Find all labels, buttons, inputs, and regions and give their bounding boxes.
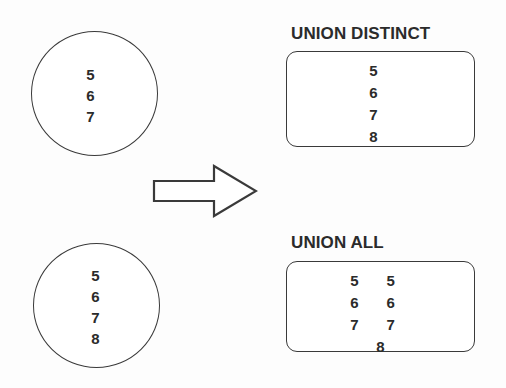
set-a-value: 5 xyxy=(86,64,95,85)
union-all-columns: 5 6 7 5 6 7 xyxy=(350,270,395,336)
union-all-value: 7 xyxy=(387,314,395,336)
set-b-value: 8 xyxy=(91,328,100,349)
set-b-value: 5 xyxy=(91,265,100,286)
union-all-value: 6 xyxy=(350,292,358,314)
union-distinct-value: 5 xyxy=(369,60,377,82)
set-a-value: 6 xyxy=(86,85,95,106)
union-all-left-column: 5 6 7 xyxy=(350,270,358,336)
input-set-circle-b: 5 6 7 8 xyxy=(33,243,160,368)
union-distinct-caption: UNION DISTINCT xyxy=(291,24,430,44)
set-a-value: 7 xyxy=(86,106,95,127)
union-comparison-diagram: 5 6 7 5 6 7 8 UNION DISTINCT 5 6 7 8 UNI… xyxy=(0,0,506,388)
input-set-circle-a: 5 6 7 xyxy=(31,31,158,156)
union-all-value: 6 xyxy=(387,292,395,314)
union-all-result-box: 5 6 7 5 6 7 8 xyxy=(286,261,475,352)
union-distinct-values: 5 6 7 8 xyxy=(280,60,467,148)
union-distinct-value: 6 xyxy=(369,82,377,104)
union-all-value: 5 xyxy=(387,270,395,292)
union-distinct-value: 8 xyxy=(369,126,377,148)
right-block-arrow-icon xyxy=(152,163,258,219)
union-distinct-value: 7 xyxy=(369,104,377,126)
union-distinct-result-box: 5 6 7 8 xyxy=(286,51,475,147)
union-all-value: 7 xyxy=(350,314,358,336)
union-all-tail-value: 8 xyxy=(376,336,384,358)
union-all-right-column: 5 6 7 xyxy=(387,270,395,336)
set-b-value: 7 xyxy=(91,307,100,328)
set-b-values: 5 6 7 8 xyxy=(91,265,100,349)
set-b-value: 6 xyxy=(91,286,100,307)
set-a-values: 5 6 7 xyxy=(86,64,95,127)
union-all-value: 5 xyxy=(350,270,358,292)
union-all-values: 5 6 7 5 6 7 8 xyxy=(279,270,466,358)
union-all-caption: UNION ALL xyxy=(291,233,384,253)
